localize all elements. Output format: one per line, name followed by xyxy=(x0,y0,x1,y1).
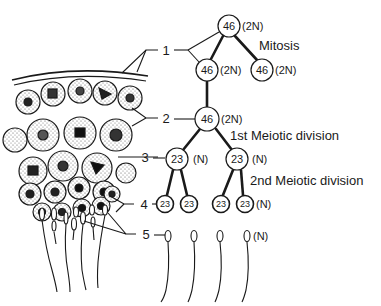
stage-mitosis: Mitosis xyxy=(259,38,300,53)
node-mitosis-left: 46 (2N) xyxy=(196,59,241,81)
sperm-tail xyxy=(215,242,221,302)
node-spermatid-1: 23 xyxy=(157,196,174,213)
sperm-head xyxy=(244,231,250,242)
node-spermatid-3: 23 xyxy=(213,196,230,213)
stage-meiosis-1: 1st Meiotic division xyxy=(230,128,339,143)
ploidy-label: (N) xyxy=(252,153,267,165)
spermatogenesis-diagram: 1 2 3 4 5 xyxy=(0,0,381,306)
chromosome-count: 23 xyxy=(231,153,243,165)
label-2: 2 xyxy=(162,111,169,126)
node-spermatid-4: 23 (N) xyxy=(237,196,272,213)
node-spermatid-2: 23 xyxy=(181,196,198,213)
seminiferous-tubule-illustration xyxy=(3,50,158,292)
ploidy-label: (N) xyxy=(256,198,271,210)
sperm-head xyxy=(191,231,197,242)
sperm-tail xyxy=(242,242,248,302)
label-3: 3 xyxy=(141,150,148,165)
label-4: 4 xyxy=(140,197,147,212)
chromosome-count: 46 xyxy=(201,64,213,76)
node-secondary-right: 23 (N) xyxy=(226,148,267,170)
chromosome-count: 23 xyxy=(184,199,194,209)
spermatozoa xyxy=(161,231,250,303)
chromosome-count: 46 xyxy=(223,20,235,32)
spermatogonia-row xyxy=(16,79,142,114)
sperm-ploidy-label: (N) xyxy=(253,230,268,242)
node-mitosis-right: 46 (2N) xyxy=(251,59,296,81)
chromosome-count: 23 xyxy=(160,199,170,209)
ploidy-label: (2N) xyxy=(275,64,296,76)
ploidy-label: (N) xyxy=(193,153,208,165)
ploidy-label: (2N) xyxy=(221,113,242,125)
ploidy-label: (2N) xyxy=(242,20,263,32)
primary-spermatocytes-row xyxy=(3,117,132,152)
chromosome-count: 23 xyxy=(216,199,226,209)
chromosome-count: 23 xyxy=(240,199,250,209)
label-1: 1 xyxy=(162,43,169,58)
sperm-head xyxy=(217,231,223,242)
node-top: 46 (2N) xyxy=(218,15,263,37)
label-5: 5 xyxy=(142,227,149,242)
sperm-head xyxy=(165,231,171,242)
spermatozoa-bundle xyxy=(40,205,108,292)
lineage-tree: 46 (2N) 46 (2N) 46 (2N) 46 (2N) 23 (N) 2… xyxy=(152,15,363,302)
ploidy-label: (2N) xyxy=(220,64,241,76)
sperm-tail xyxy=(188,242,195,302)
stage-meiosis-2: 2nd Meiotic division xyxy=(250,173,363,188)
chromosome-count: 46 xyxy=(201,113,213,125)
sperm-tail xyxy=(161,242,169,302)
chromosome-count: 46 xyxy=(256,64,268,76)
node-secondary-left: 23 (N) xyxy=(166,148,208,170)
chromosome-count: 23 xyxy=(171,153,183,165)
